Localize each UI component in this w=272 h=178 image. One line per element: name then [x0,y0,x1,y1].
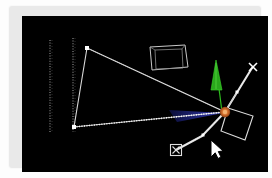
canvas-background [22,16,268,172]
vertex-marker-bottom[interactable] [72,125,76,129]
vertex-marker-top[interactable] [85,46,89,50]
convergence-node[interactable] [220,107,230,117]
app-root: 3D wireframe viewport Viewport [0,0,272,178]
wireframe-scene[interactable] [22,16,268,172]
viewport-canvas[interactable]: 3D wireframe viewport [22,16,268,172]
point-marker-mid[interactable] [202,134,205,137]
point-marker-branch[interactable] [236,91,239,94]
viewport-frame: 3D wireframe viewport [10,7,260,167]
